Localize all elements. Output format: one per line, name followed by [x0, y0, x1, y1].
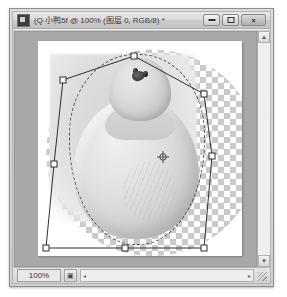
- duck-head: [109, 58, 170, 120]
- horizontal-scrollbar[interactable]: ◂ ▸: [80, 269, 254, 282]
- close-icon: ×: [251, 17, 255, 24]
- chevron-up-icon: ▲: [261, 34, 267, 40]
- minimize-icon: [208, 19, 215, 21]
- chevron-down-icon: ▼: [261, 258, 267, 264]
- scroll-left-arrow-icon[interactable]: ◂: [83, 272, 86, 279]
- vertical-scrollbar[interactable]: ▲ ▼: [257, 31, 270, 267]
- scroll-right-arrow-icon[interactable]: ▸: [248, 272, 251, 279]
- duck-artwork: [38, 41, 242, 256]
- document-thumb-icon[interactable]: ▣: [64, 269, 77, 282]
- maximize-icon: [227, 17, 234, 23]
- document-canvas[interactable]: [38, 41, 242, 256]
- photoshop-document-window: (Q 小鸭5f @ 100% (图层 0, RGB/8) * ×: [9, 8, 274, 287]
- maximize-button[interactable]: [222, 14, 239, 26]
- resize-grip-icon[interactable]: [256, 269, 268, 282]
- duck-body-texture: [123, 161, 176, 221]
- scroll-down-button[interactable]: ▼: [258, 255, 270, 267]
- zoom-level-value: 100%: [29, 271, 49, 280]
- close-button[interactable]: ×: [241, 14, 266, 26]
- zoom-level-input[interactable]: 100%: [17, 269, 61, 282]
- photoshop-icon: [17, 14, 30, 27]
- window-controls: ×: [203, 14, 266, 26]
- title-bar[interactable]: (Q 小鸭5f @ 100% (图层 0, RGB/8) * ×: [13, 12, 270, 29]
- minimize-button[interactable]: [203, 14, 220, 26]
- window-inner-frame: (Q 小鸭5f @ 100% (图层 0, RGB/8) * ×: [12, 11, 271, 284]
- scroll-up-button[interactable]: ▲: [258, 31, 270, 43]
- vertical-scroll-track[interactable]: [258, 43, 270, 255]
- canvas-viewport[interactable]: [14, 31, 257, 267]
- screenshot-root: (Q 小鸭5f @ 100% (图层 0, RGB/8) * ×: [0, 0, 287, 297]
- window-title: (Q 小鸭5f @ 100% (图层 0, RGB/8) *: [34, 15, 203, 26]
- status-bar: 100% ▣ ◂ ▸: [13, 267, 270, 283]
- document-body: ▲ ▼: [13, 29, 270, 267]
- duck-beak: [132, 70, 146, 81]
